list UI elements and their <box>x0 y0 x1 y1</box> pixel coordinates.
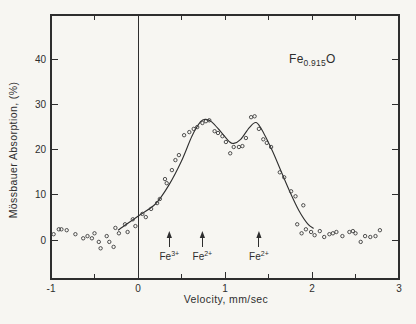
y-axis-title: Mössbauer Absorption, (%) <box>7 82 19 219</box>
data-point <box>170 168 173 171</box>
data-point <box>257 127 260 130</box>
up-arrow-icon <box>256 231 261 238</box>
data-point <box>117 232 120 235</box>
data-point <box>188 130 191 133</box>
data-point <box>331 232 334 235</box>
data-point <box>302 204 305 207</box>
sample-formula-label: Fe0.915O <box>289 52 336 68</box>
x-axis: -10123 <box>47 15 403 294</box>
data-point <box>265 141 268 144</box>
x-tick-label: 3 <box>396 283 402 294</box>
data-point <box>304 228 307 231</box>
data-point <box>108 240 111 243</box>
site-annotation: Fe3+ <box>159 231 179 262</box>
data-point <box>165 182 168 185</box>
data-point <box>237 145 240 148</box>
data-point <box>241 144 244 147</box>
ion-label: Fe2+ <box>249 250 269 262</box>
data-point <box>213 130 216 133</box>
data-point <box>97 240 100 243</box>
data-point <box>249 116 252 119</box>
data-point <box>163 177 166 180</box>
formula-prefix: Fe <box>289 52 304 66</box>
data-point <box>341 234 344 237</box>
data-point <box>65 229 68 232</box>
data-point <box>359 240 362 243</box>
x-axis-title: Velocity, mm/sec <box>184 293 268 305</box>
y-axis: 010203040 <box>35 54 399 246</box>
data-point <box>74 233 77 236</box>
data-point <box>177 153 180 156</box>
data-point <box>82 237 85 240</box>
data-point <box>201 121 204 124</box>
data-point <box>328 233 331 236</box>
data-point <box>363 234 366 237</box>
site-annotation: Fe2+ <box>249 231 269 262</box>
data-point <box>300 232 303 235</box>
data-point <box>369 235 372 238</box>
data-point <box>174 158 177 161</box>
formula-subscript: 0.915 <box>304 58 326 68</box>
data-point <box>323 235 326 238</box>
ion-label: Fe3+ <box>159 250 179 262</box>
data-point <box>221 135 224 138</box>
data-point <box>348 230 351 233</box>
ion-label: Fe2+ <box>193 250 213 262</box>
site-annotation: Fe2+ <box>193 231 213 262</box>
data-point <box>244 136 247 139</box>
scatter-points <box>52 115 382 250</box>
data-point <box>52 233 55 236</box>
mossbauer-spectrum-figure: -10123010203040Fe3+Fe2+Fe2+ Mössbauer Ab… <box>0 0 416 324</box>
data-point <box>99 247 102 250</box>
data-point <box>90 237 93 240</box>
data-point <box>126 230 129 233</box>
data-point <box>224 140 227 143</box>
data-point <box>232 145 235 148</box>
plot-canvas: -10123010203040Fe3+Fe2+Fe2+ <box>0 0 416 324</box>
x-tick-label: -1 <box>47 283 56 294</box>
fitted-curve <box>118 119 314 230</box>
data-point <box>313 234 316 237</box>
x-tick-label: 2 <box>309 283 315 294</box>
data-point <box>105 234 108 237</box>
data-point <box>378 229 381 232</box>
data-point <box>253 115 256 118</box>
data-point <box>318 229 321 232</box>
data-point <box>114 226 117 229</box>
data-point <box>262 138 265 141</box>
y-tick-label: 30 <box>35 99 47 110</box>
up-arrow-icon <box>200 231 205 238</box>
y-tick-label: 0 <box>40 235 46 246</box>
data-point <box>294 195 297 198</box>
data-point <box>192 127 195 130</box>
data-point <box>93 232 96 235</box>
data-point <box>134 224 137 227</box>
data-point <box>182 134 185 137</box>
data-point <box>354 232 357 235</box>
data-point <box>112 245 115 248</box>
formula-suffix: O <box>326 52 336 66</box>
y-tick-label: 10 <box>35 189 47 200</box>
data-point <box>86 234 89 237</box>
data-point <box>144 215 147 218</box>
data-point <box>296 223 299 226</box>
data-point <box>229 152 232 155</box>
y-tick-label: 40 <box>35 54 47 65</box>
data-point <box>335 230 338 233</box>
up-arrow-icon <box>167 231 172 238</box>
y-tick-label: 20 <box>35 144 47 155</box>
data-point <box>216 131 219 134</box>
data-point <box>309 230 312 233</box>
x-tick-label: 0 <box>135 283 141 294</box>
data-point <box>204 120 207 123</box>
data-point <box>374 234 377 237</box>
plot-border <box>51 15 399 279</box>
